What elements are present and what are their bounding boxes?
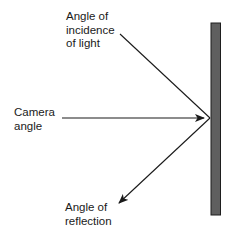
camera-angle-label: Camera angle	[14, 106, 55, 133]
reflective-surface	[211, 23, 221, 215]
reflection-ray	[119, 118, 210, 203]
incidence-angle-label: Angle of incidence of light	[66, 10, 115, 51]
reflection-angle-label: Angle of reflection	[65, 201, 112, 228]
reflection-angle-diagram: Angle of incidence of light Camera angle…	[0, 0, 237, 238]
incidence-ray	[120, 34, 210, 118]
